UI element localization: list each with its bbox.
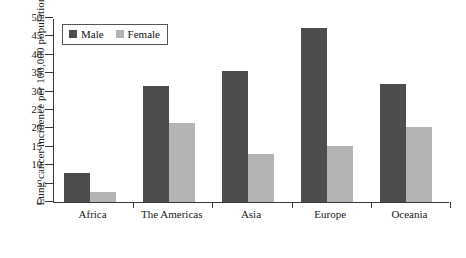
x-axis-category-label: Africa [53, 208, 132, 220]
x-axis-category-label: The Americas [132, 208, 211, 220]
legend-swatch-female-icon [116, 30, 124, 38]
y-axis-tick: 15 [45, 146, 53, 147]
y-axis-tick: 35 [45, 72, 53, 73]
bar-female-asia [248, 154, 274, 202]
bar-male-europe [301, 28, 327, 202]
y-axis-tick: 10 [45, 164, 53, 165]
y-axis-tick-label: 35 [16, 65, 42, 81]
y-axis-tick-label: 50 [16, 10, 42, 26]
legend-item-female: Female [116, 27, 160, 41]
y-axis-tick-label: 30 [16, 84, 42, 100]
x-axis-tick [450, 202, 451, 208]
plot-area: 05101520253035404550 [53, 19, 449, 203]
bar-male-asia [222, 71, 248, 202]
y-axis-tick: 5 [45, 183, 53, 184]
y-axis-tick-label: 40 [16, 47, 42, 63]
legend-item-male: Male [69, 27, 104, 41]
y-axis-tick: 45 [45, 35, 53, 36]
bar-chart-figure: Lung cancer incidence per 100,000 popula… [0, 0, 466, 258]
y-axis-tick-label: 45 [16, 28, 42, 44]
bar-female-oceania [406, 127, 432, 202]
y-axis-tick: 25 [45, 109, 53, 110]
bar-female-europe [327, 146, 353, 202]
y-axis-tick-label: 15 [16, 139, 42, 155]
y-axis-tick: 40 [45, 54, 53, 55]
x-axis-category-label: Asia [211, 208, 290, 220]
x-axis-category-label: Europe [291, 208, 370, 220]
legend-label-male: Male [81, 27, 104, 41]
y-axis-tick: 0 [45, 201, 53, 202]
y-axis-tick: 20 [45, 127, 53, 128]
y-axis-tick-label: 20 [16, 120, 42, 136]
chart-legend: Male Female [62, 24, 168, 45]
bar-male-africa [64, 173, 90, 202]
y-axis-tick: 30 [45, 91, 53, 92]
bar-female-the-americas [169, 123, 195, 202]
legend-label-female: Female [128, 27, 160, 41]
x-axis-category-label: Oceania [370, 208, 449, 220]
y-axis-tick-label: 0 [16, 194, 42, 210]
bar-male-oceania [380, 84, 406, 202]
y-axis-tick-label: 5 [16, 176, 42, 192]
bar-male-the-americas [143, 86, 169, 202]
bar-female-africa [90, 192, 116, 202]
y-axis-tick: 50 [45, 17, 53, 18]
legend-swatch-male-icon [69, 30, 77, 38]
y-axis-tick-label: 25 [16, 102, 42, 118]
y-axis-tick-label: 10 [16, 157, 42, 173]
